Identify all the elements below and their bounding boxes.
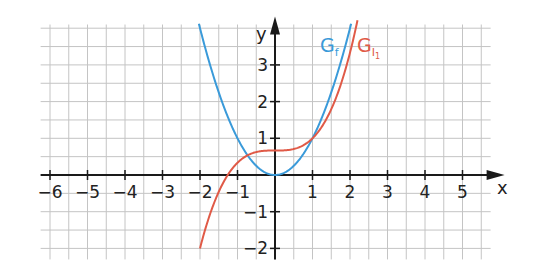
x-tick-label: 2 bbox=[345, 182, 356, 202]
y-tick-label: 3 bbox=[257, 55, 268, 75]
x-tick-label: 5 bbox=[457, 182, 468, 202]
y-axis-label: y bbox=[256, 23, 267, 44]
x-tick-label: −3 bbox=[150, 182, 175, 202]
x-tick-label: 3 bbox=[382, 182, 393, 202]
x-tick-label: −5 bbox=[75, 182, 100, 202]
x-tick-label: −2 bbox=[187, 182, 212, 202]
y-tick-label: −2 bbox=[243, 238, 268, 258]
x-tick-label: 1 bbox=[307, 182, 318, 202]
y-tick-label: 2 bbox=[257, 92, 268, 112]
x-tick-label: −4 bbox=[112, 182, 137, 202]
x-tick-label: 4 bbox=[420, 182, 431, 202]
x-tick-label: −6 bbox=[37, 182, 62, 202]
function-graph: −6−5−4−3−2−112345−2−1123 Gf GI1 x y bbox=[0, 0, 534, 268]
x-axis-label: x bbox=[497, 177, 508, 198]
y-tick-label: 1 bbox=[257, 128, 268, 148]
x-tick-label: −1 bbox=[225, 182, 250, 202]
y-tick-label: −1 bbox=[243, 202, 268, 222]
label-gf: Gf bbox=[320, 34, 340, 59]
y-axis-arrow-icon bbox=[270, 17, 280, 35]
